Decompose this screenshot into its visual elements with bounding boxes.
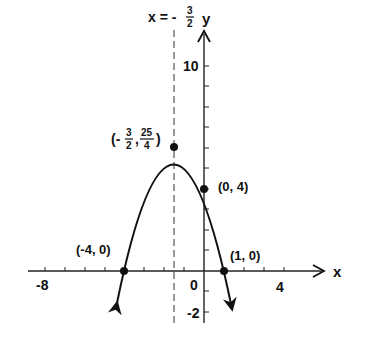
tick-label-10: 10	[183, 58, 199, 74]
label-point-0-4: (0, 4)	[218, 179, 248, 194]
label-point-1-0: (1, 0)	[230, 248, 260, 263]
y-intercept-point	[200, 185, 208, 193]
svg-text:3: 3	[126, 127, 132, 138]
x-axis-label: x	[333, 263, 342, 280]
y-axis-label: y	[202, 10, 211, 27]
svg-text:): )	[156, 131, 161, 147]
svg-text:25: 25	[141, 127, 153, 138]
svg-text:x = -: x = -	[148, 9, 177, 25]
svg-text:2: 2	[126, 140, 132, 151]
x-intercept-right-point	[220, 267, 228, 275]
vertex-label: (- 3 2 , 25 4 )	[111, 127, 161, 151]
tick-label-neg2: -2	[187, 305, 200, 321]
vertex-point	[170, 143, 178, 151]
x-intercept-left-point	[120, 267, 128, 275]
svg-text:3: 3	[187, 5, 193, 16]
svg-text:4: 4	[144, 140, 150, 151]
x-axis	[28, 265, 324, 277]
y-axis	[198, 31, 210, 323]
parabola-chart: x y -8 0 4 10 -2 (0, 4) (-4, 0) (1, 0) x…	[0, 0, 368, 347]
tick-label-0: 0	[190, 277, 198, 293]
label-point-neg4-0: (-4, 0)	[76, 242, 111, 257]
tick-label-neg8: -8	[36, 277, 49, 293]
axis-of-symmetry-label: x = - 3 2	[148, 5, 194, 29]
tick-label-4: 4	[276, 279, 284, 295]
svg-text:2: 2	[187, 18, 193, 29]
svg-text:,: ,	[135, 131, 139, 147]
svg-text:(-: (-	[111, 131, 121, 147]
